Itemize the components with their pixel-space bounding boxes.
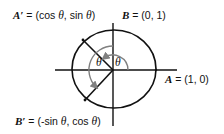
theta-label-left: θ: [96, 56, 102, 68]
b-prime-point: [84, 99, 87, 102]
a-prime-point: [82, 39, 85, 42]
a-label: A = (1, 0): [164, 73, 209, 85]
a-prime-label: A′ = (cos θ, sin θ): [12, 9, 95, 21]
b-prime-label: B′ = (-sin θ, cos θ): [14, 115, 101, 127]
a-point: [155, 69, 157, 71]
unit-circle-diagram: θ θ A′ = (cos θ, sin θ) B = (0, 1) A = (…: [0, 0, 224, 134]
theta-label-right: θ: [115, 56, 121, 68]
b-label: B = (0, 1): [121, 9, 166, 21]
